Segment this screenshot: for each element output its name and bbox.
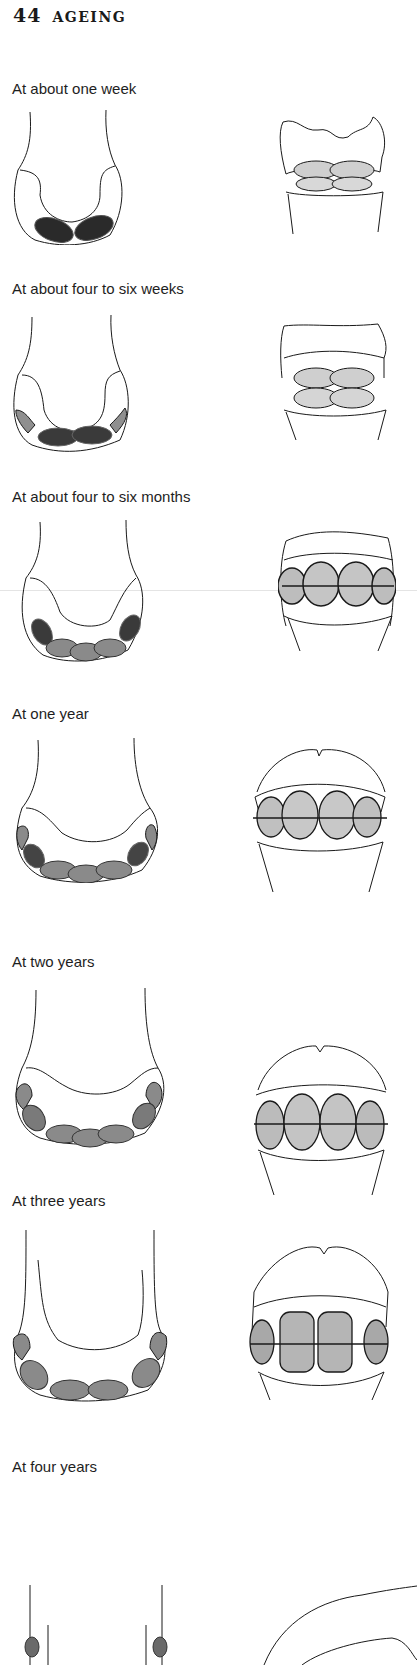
front-teeth-diagram-one-week: [278, 112, 388, 237]
stage-caption-one-year: At one year: [12, 705, 89, 722]
lower-jaw-diagram-two-years: [10, 988, 170, 1148]
lower-jaw-diagram-one-year: [12, 738, 162, 883]
front-teeth-diagram-one-year: [247, 742, 392, 897]
front-teeth-diagram-four-years: [262, 1580, 417, 1665]
front-teeth-diagram-two-years: [248, 1040, 393, 1200]
stage-caption-two-years: At two years: [12, 953, 95, 970]
stage-caption-four-to-six-months: At about four to six months: [12, 488, 190, 505]
stage-caption-four-years: At four years: [12, 1458, 97, 1475]
stage-caption-four-to-six-weeks: At about four to six weeks: [12, 280, 184, 297]
lower-jaw-diagram-four-to-six-weeks: [10, 315, 135, 455]
stage-caption-one-week: At about one week: [12, 80, 136, 97]
lower-jaw-diagram-three-years: [8, 1230, 173, 1405]
front-teeth-diagram-four-to-six-weeks: [278, 318, 390, 443]
page-number: 44: [13, 4, 41, 26]
stage-caption-three-years: At three years: [12, 1192, 105, 1209]
lower-jaw-diagram-one-week: [10, 110, 130, 245]
lower-jaw-diagram-four-years: [20, 1585, 170, 1665]
page-header: 44 AGEING: [13, 4, 126, 26]
front-teeth-diagram-three-years: [240, 1232, 390, 1402]
chapter-title: AGEING: [52, 9, 126, 25]
lower-jaw-diagram-four-to-six-months: [18, 520, 148, 665]
front-teeth-diagram-four-to-six-months: [278, 526, 396, 656]
